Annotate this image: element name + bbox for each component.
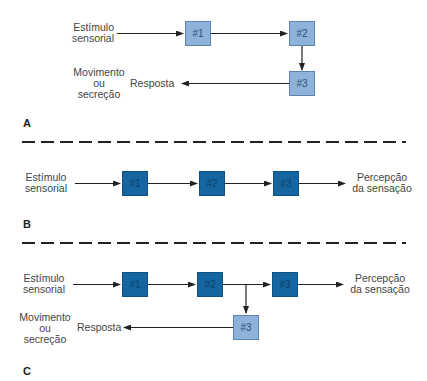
panel-a-box-3: #3 (289, 71, 315, 96)
box-label: #2 (204, 279, 215, 290)
box-label: #2 (296, 28, 307, 39)
input-label-line2: sensorial (20, 284, 68, 295)
panel-a-output-label: Movimento ou secreção (72, 67, 126, 100)
box-label: #3 (279, 279, 290, 290)
input-label-line2: sensorial (22, 183, 70, 194)
panel-a-response-label: Resposta (130, 78, 174, 89)
panel-c-output-label: Movimento ou secreção (18, 312, 72, 345)
perception-line2: da sensação (348, 284, 412, 295)
box-label: #1 (129, 279, 140, 290)
input-label-line2: sensorial (62, 33, 114, 44)
output-line3: secreção (72, 89, 126, 100)
panel-c-box-3: #3 (272, 272, 298, 297)
box-label: #3 (296, 78, 307, 89)
panel-c-box-2: #2 (197, 272, 223, 297)
output-line2: da sensação (350, 183, 414, 194)
panel-b-box-3: #3 (273, 171, 299, 196)
panel-c-input-label: Estímulo sensorial (20, 273, 68, 295)
box-label: #1 (129, 178, 140, 189)
panel-b-input-label: Estímulo sensorial (22, 172, 70, 194)
panel-b-letter: B (23, 218, 31, 230)
panel-b-output-label: Percepção da sensação (350, 172, 414, 194)
box-label: #3 (240, 322, 251, 333)
panel-a-input-label: Estímulo sensorial (62, 22, 114, 44)
panel-c-box-1: #1 (122, 272, 148, 297)
panel-a-box-1: #1 (185, 21, 211, 46)
panel-a-box-2: #2 (289, 21, 315, 46)
panel-c-letter: C (23, 365, 31, 377)
output-line3: secreção (18, 334, 72, 345)
panel-c-branch-box: #3 (233, 315, 259, 340)
panel-b-box-2: #2 (199, 171, 225, 196)
panel-c-perception-label: Percepção da sensação (348, 273, 412, 295)
box-label: #2 (206, 178, 217, 189)
panel-a-letter: A (23, 117, 31, 129)
box-label: #3 (280, 178, 291, 189)
panel-b-box-1: #1 (122, 171, 148, 196)
box-label: #1 (192, 28, 203, 39)
panel-c-response-label: Resposta (77, 322, 121, 333)
